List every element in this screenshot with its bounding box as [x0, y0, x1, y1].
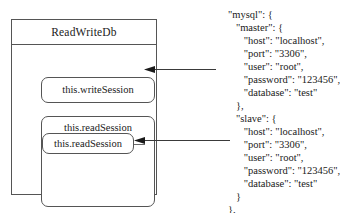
code-line: "host": "localhost",	[228, 34, 360, 47]
code-line: }	[228, 190, 360, 203]
code-line: "mysql": {	[228, 8, 360, 21]
mysql-config-code: "mysql": { "master": { "host": "localhos…	[228, 8, 360, 213]
code-line: "database": "test"	[228, 86, 360, 99]
read-session-inner-box: this.readSession	[42, 133, 134, 154]
read-session-box: this.readSession	[41, 116, 155, 207]
code-line: "password": "123456",	[228, 73, 360, 86]
code-line: "password": "123456",	[228, 164, 360, 177]
code-line: "database": "test"	[228, 177, 360, 190]
write-session-box: this.writeSession	[41, 77, 155, 103]
write-session-label: this.writeSession	[42, 84, 154, 95]
code-line: "port": "3306",	[228, 47, 360, 60]
code-line: "port": "3306",	[228, 138, 360, 151]
read-session-inner-label: this.readSession	[43, 138, 133, 149]
class-title: ReadWriteDb	[51, 26, 117, 38]
read-session-label: this.readSession	[42, 122, 154, 133]
code-line: "user": "root",	[228, 60, 360, 73]
code-line: "user": "root",	[228, 151, 360, 164]
code-line: "host": "localhost",	[228, 125, 360, 138]
code-line: "master": {	[228, 21, 360, 34]
code-line: },	[228, 203, 360, 213]
readwritedb-class-box: ReadWriteDb this.writeSession this.readS…	[11, 19, 157, 195]
class-header: ReadWriteDb	[12, 20, 156, 45]
code-line: "slave": {	[228, 112, 360, 125]
code-line: },	[228, 99, 360, 112]
diagram-canvas: ReadWriteDb this.writeSession this.readS…	[0, 0, 360, 213]
